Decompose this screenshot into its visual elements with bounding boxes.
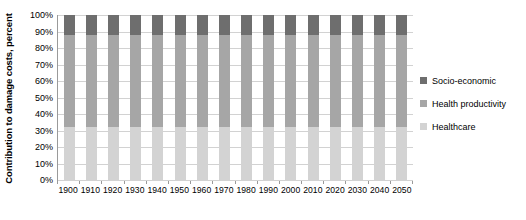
bar-segment xyxy=(374,35,385,127)
x-axis-tick-label: 2030 xyxy=(346,185,368,201)
bar-segment xyxy=(175,127,186,180)
bar-segment xyxy=(219,15,230,35)
x-axis-tick-mark xyxy=(345,181,346,184)
x-axis-tick-mark xyxy=(368,181,369,184)
bar-segment xyxy=(130,127,141,180)
y-axis-tick-label: 10% xyxy=(35,159,53,169)
chart-legend: Socio-economicHealth productivityHealthc… xyxy=(420,69,526,138)
bar-1970 xyxy=(219,15,230,180)
bar-segment xyxy=(330,127,341,180)
legend-item: Socio-economic xyxy=(420,69,526,92)
bar-1980 xyxy=(241,15,252,180)
y-axis-tick-label: 60% xyxy=(35,76,53,86)
bar-segment xyxy=(308,35,319,127)
bar-2050 xyxy=(396,15,407,180)
bar-segment xyxy=(396,35,407,127)
bar-1930 xyxy=(130,15,141,180)
bar-1990 xyxy=(263,15,274,180)
bar-segment xyxy=(108,127,119,180)
stacked-bar-chart: Contribution to damage costs, percent 10… xyxy=(0,0,526,220)
bar-segment xyxy=(396,127,407,180)
x-axis-tick-label: 1980 xyxy=(235,185,257,201)
x-axis-tick-label: 1940 xyxy=(146,185,168,201)
bar-segment xyxy=(152,15,163,35)
bar-1920 xyxy=(108,15,119,180)
x-axis-tick-mark xyxy=(124,181,125,184)
bar-segment xyxy=(175,35,186,127)
bar-1950 xyxy=(175,15,186,180)
y-axis-tick-label: 70% xyxy=(35,60,53,70)
bar-segment xyxy=(241,35,252,127)
bar-segment xyxy=(197,35,208,127)
bar-segment xyxy=(219,127,230,180)
bar-segment xyxy=(197,127,208,180)
x-axis-tick-label: 1950 xyxy=(168,185,190,201)
y-axis-tick-label: 90% xyxy=(35,27,53,37)
x-axis-tick-mark xyxy=(79,181,80,184)
x-axis-tick-label: 2000 xyxy=(280,185,302,201)
bar-segment xyxy=(352,15,363,35)
x-axis-tick-mark xyxy=(57,181,58,184)
bar-segment xyxy=(285,35,296,127)
bar-segment xyxy=(152,35,163,127)
bar-segment xyxy=(374,127,385,180)
y-axis-tick-label: 50% xyxy=(35,93,53,103)
bar-segment xyxy=(130,15,141,35)
bar-1900 xyxy=(64,15,75,180)
bars-layer xyxy=(58,15,413,180)
bar-segment xyxy=(285,127,296,180)
plot-area xyxy=(57,15,413,181)
y-axis-tick-label: 100% xyxy=(30,10,53,20)
x-axis-tick-label: 2050 xyxy=(391,185,413,201)
legend-label: Health productivity xyxy=(432,99,506,109)
bar-segment xyxy=(108,35,119,127)
x-axis-tick-mark xyxy=(412,181,413,184)
bar-segment xyxy=(263,127,274,180)
legend-item: Healthcare xyxy=(420,115,526,138)
legend-swatch-icon xyxy=(420,123,427,130)
y-axis-tick-label: 30% xyxy=(35,126,53,136)
bar-segment xyxy=(219,35,230,127)
bar-segment xyxy=(352,35,363,127)
bar-2020 xyxy=(330,15,341,180)
x-axis-tick-label: 2040 xyxy=(369,185,391,201)
y-axis-tick-label: 20% xyxy=(35,142,53,152)
x-axis-tick-label: 1930 xyxy=(124,185,146,201)
legend-swatch-icon xyxy=(420,77,427,84)
x-axis-tick-mark xyxy=(301,181,302,184)
y-axis-tick-label: 0% xyxy=(40,175,53,185)
bar-segment xyxy=(86,15,97,35)
bar-segment xyxy=(175,15,186,35)
y-axis-tick-labels: 100%90%80%70%60%50%40%30%20%10%0% xyxy=(16,15,57,180)
x-axis-tick-labels: 1900191019201930194019501960197019801990… xyxy=(57,185,413,201)
bar-segment xyxy=(130,35,141,127)
y-axis-tick-label: 40% xyxy=(35,109,53,119)
bar-segment xyxy=(197,15,208,35)
bar-segment xyxy=(330,15,341,35)
y-axis-title-text: Contribution to damage costs, percent xyxy=(3,13,14,183)
x-axis-tick-mark xyxy=(190,181,191,184)
bar-segment xyxy=(64,35,75,127)
x-axis-tick-label: 1990 xyxy=(257,185,279,201)
legend-item: Health productivity xyxy=(420,92,526,115)
x-axis-tick-label: 2010 xyxy=(302,185,324,201)
x-axis-tick-label: 1920 xyxy=(102,185,124,201)
legend-swatch-icon xyxy=(420,100,427,107)
bar-segment xyxy=(64,127,75,180)
x-axis-tick-mark xyxy=(168,181,169,184)
bar-2010 xyxy=(308,15,319,180)
x-axis-tick-mark xyxy=(146,181,147,184)
x-axis-tick-label: 1900 xyxy=(57,185,79,201)
x-axis-tick-mark xyxy=(101,181,102,184)
x-axis-tick-label: 1960 xyxy=(191,185,213,201)
bar-segment xyxy=(86,127,97,180)
bar-segment xyxy=(241,15,252,35)
bar-segment xyxy=(241,127,252,180)
legend-label: Socio-economic xyxy=(432,76,496,86)
bar-1960 xyxy=(197,15,208,180)
bar-2030 xyxy=(352,15,363,180)
bar-segment xyxy=(108,15,119,35)
x-axis-tick-label: 2020 xyxy=(324,185,346,201)
bar-segment xyxy=(374,15,385,35)
bar-segment xyxy=(330,35,341,127)
